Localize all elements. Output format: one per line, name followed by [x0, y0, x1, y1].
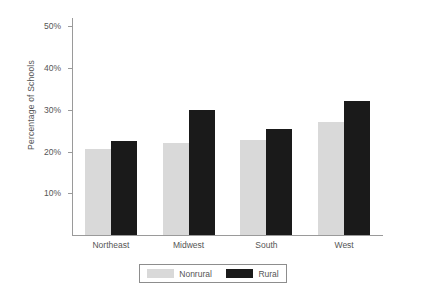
bar-group-south: [240, 18, 292, 235]
legend-label-nonrural: Nonrural: [179, 269, 212, 279]
x-label-midwest: Midwest: [173, 240, 204, 250]
y-tick-label: 10%: [44, 188, 61, 198]
y-tick-40: 40%: [68, 68, 72, 69]
bar-northeast-nonrural: [85, 149, 111, 235]
y-tick-30: 30%: [68, 110, 72, 111]
bar-midwest-nonrural: [163, 143, 189, 235]
bar-group-northeast: [85, 18, 137, 235]
y-tick-20: 20%: [68, 152, 72, 153]
x-label-south: South: [255, 240, 277, 250]
bar-west-nonrural: [318, 122, 344, 235]
y-tick-label: 30%: [44, 105, 61, 115]
bar-group-west: [318, 18, 370, 235]
bar-group-midwest: [163, 18, 215, 235]
y-axis-title: Percentage of Schools: [26, 30, 36, 180]
bar-south-nonrural: [240, 140, 266, 235]
bar-northeast-rural: [111, 141, 137, 235]
chart-legend: Nonrural Rural: [139, 264, 287, 283]
x-label-west: West: [335, 240, 354, 250]
y-tick-10: 10%: [68, 193, 72, 194]
bar-chart: Percentage of Schools 10%20%30%40%50% No…: [0, 0, 423, 299]
y-tick-label: 40%: [44, 63, 61, 73]
legend-swatch-rural: [226, 269, 253, 278]
bar-midwest-rural: [189, 110, 215, 235]
bar-west-rural: [344, 101, 370, 235]
legend-item-rural: Rural: [226, 269, 278, 279]
x-axis-line: [72, 235, 383, 236]
legend-item-nonrural: Nonrural: [147, 269, 212, 279]
y-tick-label: 20%: [44, 147, 61, 157]
x-label-northeast: Northeast: [92, 240, 129, 250]
plot-area: 10%20%30%40%50% NortheastMidwestSouthWes…: [72, 18, 383, 236]
y-axis-line: [72, 18, 73, 236]
y-tick-50: 50%: [68, 26, 72, 27]
legend-label-rural: Rural: [258, 269, 278, 279]
bar-south-rural: [266, 129, 292, 235]
y-tick-label: 50%: [44, 21, 61, 31]
legend-swatch-nonrural: [147, 269, 174, 278]
